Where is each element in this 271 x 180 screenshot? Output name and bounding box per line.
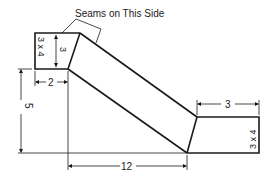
run-dimension: 12 [68,155,187,172]
seam-callout-label: Seams on This Side [75,8,165,19]
left-offset-label: 2 [48,77,54,88]
left-size-label: 3 x 4 [36,37,46,57]
left-height-label: 3 [58,47,68,52]
rise-label: 5 [23,103,34,109]
right-length-dimension: 3 [197,99,259,115]
duct-offset-diagram: Seams on This Side 3 3 x 4 2 5 12 [0,0,271,180]
seam-callout: Seams on This Side [62,8,165,43]
right-length-label: 3 [225,99,231,110]
run-label: 12 [121,161,133,172]
left-height-dimension: 3 [54,35,68,67]
offset-body [68,33,197,153]
left-offset-dimension: 2 [35,71,68,170]
right-size-label: 3 x 4 [248,129,258,149]
